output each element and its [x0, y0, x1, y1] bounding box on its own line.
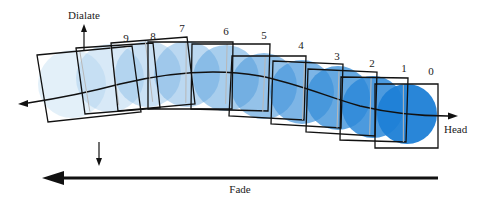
trajectory-head-arrow-icon [448, 113, 458, 120]
frame-index-label: 3 [334, 50, 340, 62]
frame-index-label: 6 [223, 25, 229, 37]
dilate-up-arrowhead-icon [81, 24, 87, 32]
frame-index-label: 7 [179, 22, 185, 34]
trajectory-left-arrow-icon [18, 100, 28, 107]
head-label: Head [444, 123, 468, 135]
frame-index-label: 9 [123, 32, 129, 44]
frame-index-label: 2 [369, 57, 375, 69]
trajectory-diagram: 9876543210 Dialate Head Fade [0, 0, 486, 206]
dilate-label: Dialate [68, 9, 100, 21]
frame-index-label: 8 [150, 30, 156, 42]
frame-index-label: 5 [261, 29, 267, 41]
diagram-canvas: 9876543210 Dialate Head Fade [0, 0, 486, 206]
frame-index-label: 1 [401, 62, 407, 74]
fade-label: Fade [229, 183, 251, 195]
dilate-down-arrowhead-icon [96, 158, 102, 166]
frame-index-label: 0 [428, 65, 434, 77]
fade-arrowhead-icon [42, 171, 64, 185]
frame-index-label: 4 [298, 39, 304, 51]
